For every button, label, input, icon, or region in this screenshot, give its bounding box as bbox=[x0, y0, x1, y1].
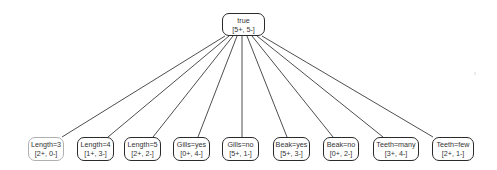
edge-root-to-c2 bbox=[153, 36, 233, 137]
child-node-gills-no[interactable]: Gills=no [5+, 1-] bbox=[222, 137, 259, 161]
child-node-label: Length=5 bbox=[127, 140, 157, 149]
child-node-counts: [0+, 4-] bbox=[180, 149, 203, 158]
root-node-counts: [5+, 5-] bbox=[232, 25, 255, 34]
root-node[interactable]: true [5+, 5-] bbox=[222, 13, 265, 36]
child-node-label: Beak=no bbox=[327, 140, 356, 149]
child-node-counts: [5+, 1-] bbox=[229, 149, 252, 158]
child-node-teeth-few[interactable]: Teeth=few [2+, 1-] bbox=[432, 137, 474, 161]
child-node-teeth-many[interactable]: Teeth=many [3+, 4-] bbox=[373, 137, 419, 161]
child-node-label: Length=3 bbox=[31, 140, 61, 149]
child-node-counts: [0+, 2-] bbox=[330, 149, 353, 158]
child-node-beak-yes[interactable]: Beak=yes [5+, 3-] bbox=[273, 137, 310, 161]
child-node-label: Teeth=many bbox=[376, 140, 415, 149]
child-node-length-4[interactable]: Length=4 [1+, 3-] bbox=[77, 137, 114, 161]
child-node-counts: [2+, 1-] bbox=[442, 149, 465, 158]
child-node-gills-yes[interactable]: Gills=yes [0+, 4-] bbox=[173, 137, 210, 161]
child-node-label: Gills=yes bbox=[177, 140, 206, 149]
child-node-label: Length=4 bbox=[80, 140, 110, 149]
faint-mark bbox=[474, 72, 476, 75]
child-node-counts: [5+, 3-] bbox=[280, 149, 303, 158]
child-node-label: Gills=no bbox=[227, 140, 253, 149]
child-node-counts: [2+, 2-] bbox=[131, 149, 154, 158]
root-node-label: true bbox=[237, 16, 249, 25]
edge-root-to-c3 bbox=[198, 36, 237, 137]
child-node-length-5[interactable]: Length=5 [2+, 2-] bbox=[124, 137, 161, 161]
edge-root-to-c6 bbox=[252, 36, 333, 137]
child-node-counts: [3+, 4-] bbox=[385, 149, 408, 158]
child-node-length-3[interactable]: Length=3 [2+, 0-] bbox=[28, 137, 64, 161]
child-node-label: Teeth=few bbox=[437, 140, 470, 149]
edge-root-to-c8 bbox=[262, 36, 433, 137]
child-node-counts: [1+, 3-] bbox=[84, 149, 107, 158]
edge-root-to-c1 bbox=[108, 36, 229, 137]
edge-root-to-c7 bbox=[257, 36, 383, 137]
child-node-label: Beak=yes bbox=[276, 140, 308, 149]
edge-root-to-c5 bbox=[247, 36, 287, 137]
edge-root-to-c0 bbox=[62, 36, 225, 137]
child-node-counts: [2+, 0-] bbox=[35, 149, 58, 158]
child-node-beak-no[interactable]: Beak=no [0+, 2-] bbox=[323, 137, 359, 161]
